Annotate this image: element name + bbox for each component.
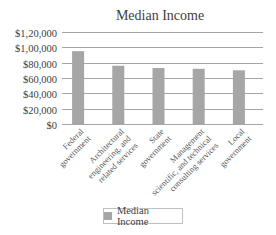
bar (112, 66, 124, 124)
y-tick-label: $20,000 (23, 105, 57, 116)
x-category-label: Architecturalengineering, andrelated ser… (79, 126, 141, 188)
y-tick-label: $80,000 (23, 59, 57, 70)
y-tick-label: $1,00,000 (15, 43, 57, 54)
x-axis-categories: FederalgovernmentArchitecturalengineerin… (50, 126, 254, 205)
bar (153, 68, 165, 124)
legend-swatch-median-income (104, 212, 112, 220)
chart-title: Median Income (116, 8, 204, 23)
legend-label-median-income: Median Income (117, 205, 182, 227)
y-tick-label: $60,000 (23, 74, 57, 85)
bars (72, 51, 245, 124)
bar (193, 69, 205, 124)
bar-chart: Median Income $0$20,000$40,000$60,000$80… (0, 0, 276, 205)
legend: Median Income (103, 208, 183, 224)
bar (233, 70, 245, 124)
y-tick-label: $0 (47, 120, 58, 131)
y-tick-label: $1,20,000 (15, 28, 57, 39)
bar (72, 51, 84, 124)
x-category-label: Federalgovernment (50, 126, 93, 169)
y-tick-label: $40,000 (23, 89, 57, 100)
y-axis-ticks: $0$20,000$40,000$60,000$80,000$1,00,000$… (15, 28, 57, 131)
